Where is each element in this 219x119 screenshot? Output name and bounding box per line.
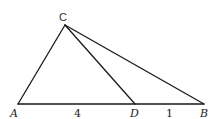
length-label-db: 1 xyxy=(166,107,173,119)
length-label-ad: 4 xyxy=(74,107,81,119)
segment-cd xyxy=(65,25,135,104)
segment-cb xyxy=(65,25,204,104)
vertex-label-a: A xyxy=(9,107,18,119)
vertex-label-b: B xyxy=(199,107,208,119)
segment-ac xyxy=(18,25,65,104)
vertex-label-d: D xyxy=(129,107,139,119)
triangle-diagram: C A D B 4 1 xyxy=(0,0,219,119)
vertex-label-c: C xyxy=(59,11,67,23)
